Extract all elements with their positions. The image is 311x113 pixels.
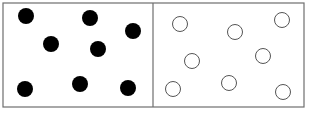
filled-dot — [43, 36, 59, 52]
filled-dot — [72, 76, 88, 92]
hollow-circle — [222, 76, 237, 91]
filled-dot — [90, 41, 106, 57]
hollow-circle — [276, 85, 291, 100]
filled-dot — [120, 80, 136, 96]
hollow-circle — [166, 82, 181, 97]
right-panel-hollow-circles — [166, 13, 291, 100]
hollow-circle — [185, 54, 200, 69]
filled-dot — [82, 10, 98, 26]
filled-dot — [18, 8, 34, 24]
dots-diagram — [0, 0, 311, 113]
hollow-circle — [256, 49, 271, 64]
left-panel-filled-dots — [17, 8, 141, 97]
filled-dot — [17, 81, 33, 97]
hollow-circle — [275, 13, 290, 28]
hollow-circle — [173, 17, 188, 32]
hollow-circle — [228, 25, 243, 40]
diagram-stage — [0, 0, 311, 113]
filled-dot — [125, 23, 141, 39]
